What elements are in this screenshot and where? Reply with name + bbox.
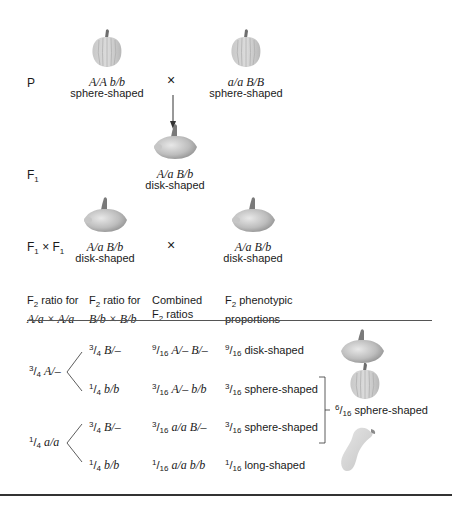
sphere-squash-icon [349, 362, 381, 400]
row2-b-ratio: 1/4 b/b [89, 382, 119, 397]
combined-sphere-phenotype: 6/16 sphere-shaped [335, 403, 428, 418]
row4-combined: 1/16 a/a b/b [152, 458, 205, 473]
row1-phenotype: 9/16 disk-shaped [225, 343, 304, 358]
row1-b-ratio: 3/4 B/– [89, 343, 121, 358]
row2-phenotype: 3/16 sphere-shaped [225, 382, 318, 397]
row1-combined: 9/16 A/– B/– [152, 343, 208, 358]
bottom-rule [0, 494, 452, 496]
row3-combined: 3/16 a/a B/– [152, 420, 206, 435]
row2-combined: 3/16 A/– b/b [152, 382, 206, 397]
row3-b-ratio: 3/4 B/– [89, 420, 121, 435]
row4-phenotype: 1/16 long-shaped [225, 458, 305, 473]
long-squash-icon [333, 425, 378, 475]
disk-squash-icon [337, 328, 387, 366]
row3-phenotype: 3/16 sphere-shaped [225, 420, 318, 435]
row4-b-ratio: 1/4 b/b [89, 458, 119, 473]
